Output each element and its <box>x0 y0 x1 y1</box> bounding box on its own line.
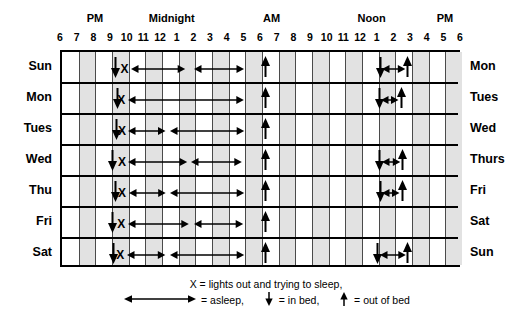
day-label-left-mon: Mon <box>26 90 52 103</box>
out-of-bed-arrow-icon-tues-0 <box>260 118 271 140</box>
hour-tick-16: 10 <box>321 31 333 43</box>
row-separator <box>62 113 458 115</box>
hour-tick-1: 7 <box>74 31 80 43</box>
row-separator <box>62 144 458 146</box>
asleep-arrow-icon-sun-0 <box>131 63 185 75</box>
asleep-arrow-icon-tues-1 <box>170 125 244 137</box>
out-of-bed-arrow-icon-wed-0 <box>260 149 271 171</box>
hour-tick-9: 3 <box>207 31 213 43</box>
day-label-right-thurs: Thurs <box>470 152 505 165</box>
day-label-right-sun: Sun <box>470 245 494 258</box>
lights-out-x-mark-sat-0: X <box>116 249 124 261</box>
legend-line-symbols: = asleep, = in bed, = out of bed <box>0 292 532 310</box>
diary-grid: XXXXXXX <box>60 50 460 267</box>
in-bed-arrow-icon <box>264 292 274 310</box>
hour-tick-18: 12 <box>354 31 366 43</box>
hour-tick-2: 8 <box>90 31 96 43</box>
row-separator <box>62 237 458 239</box>
out-of-bed-arrow-icon-fri-0 <box>260 211 271 233</box>
day-label-right-tues: Tues <box>470 90 498 103</box>
hour-tick-10: 4 <box>224 31 230 43</box>
hour-tick-3: 9 <box>107 31 113 43</box>
legend-asleep-text: = asleep, <box>201 294 244 306</box>
day-label-left-tues: Tues <box>24 121 52 134</box>
legend-out-of-bed-text: = out of bed <box>354 294 410 306</box>
nap-out-of-bed-arrow-icon-sun-0 <box>402 56 413 78</box>
asleep-arrow-icon-sat-1 <box>170 249 244 261</box>
day-label-left-thu: Thu <box>29 183 52 196</box>
day-label-left-fri: Fri <box>36 214 52 227</box>
lights-out-x-mark-fri-0: X <box>117 218 125 230</box>
hour-tick-20: 2 <box>390 31 396 43</box>
asleep-arrow-icon-wed-1 <box>191 156 242 168</box>
lights-out-x-mark-wed-0: X <box>118 156 126 168</box>
hour-tick-0: 6 <box>57 31 63 43</box>
hour-tick-4: 10 <box>121 31 133 43</box>
in-bed-arrow-icon-sun-0 <box>110 56 121 78</box>
asleep-arrow-icon-wed-0 <box>128 156 187 168</box>
day-label-left-wed: Wed <box>26 152 52 165</box>
legend-in-bed-text: = in bed, <box>279 294 320 306</box>
asleep-arrow-icon-sun-1 <box>194 63 244 75</box>
row-separator <box>62 82 458 84</box>
lights-out-x-mark-sun-0: X <box>120 63 128 75</box>
asleep-arrow-icon-sat-0 <box>127 249 165 261</box>
period-label-midnight-1: Midnight <box>149 12 195 24</box>
hour-tick-13: 7 <box>274 31 280 43</box>
hour-tick-5: 11 <box>138 31 149 43</box>
hour-tick-19: 1 <box>374 31 380 43</box>
day-label-right-mon: Mon <box>470 59 496 72</box>
hour-tick-23: 5 <box>440 31 446 43</box>
day-label-left-sat: Sat <box>33 245 52 258</box>
out-of-bed-arrow-icon-mon-0 <box>260 87 271 109</box>
nap-out-of-bed-arrow-icon-mon-0 <box>396 87 407 109</box>
in-bed-arrow-icon-wed-0 <box>107 149 118 171</box>
day-label-right-wed: Wed <box>470 121 496 134</box>
nap-out-of-bed-arrow-icon-sat-0 <box>402 242 413 264</box>
row-separator <box>62 206 458 208</box>
period-label-pm-4: PM <box>437 12 454 24</box>
lights-out-x-mark-thu-0: X <box>118 187 126 199</box>
hour-tick-21: 3 <box>407 31 413 43</box>
period-label-pm-0: PM <box>87 12 104 24</box>
hour-tick-6: 12 <box>154 31 166 43</box>
day-label-right-sat: Sat <box>470 214 489 227</box>
hour-tick-7: 1 <box>174 31 180 43</box>
hour-tick-12: 6 <box>257 31 263 43</box>
asleep-arrow-icon-tues-0 <box>128 125 166 137</box>
asleep-arrow-icon-fri-1 <box>194 218 243 230</box>
hour-tick-8: 2 <box>190 31 196 43</box>
asleep-arrow-icon-thu-1 <box>170 187 244 199</box>
sleep-diary-chart: PMMidnightAMNoonPM 678910111212345678910… <box>0 0 532 317</box>
row-separator <box>62 175 458 177</box>
out-of-bed-arrow-icon-sat-0 <box>260 242 271 264</box>
hour-tick-14: 8 <box>290 31 296 43</box>
hour-tick-15: 9 <box>307 31 313 43</box>
legend-line-lights-out: X = lights out and trying to sleep, <box>0 277 532 292</box>
lights-out-x-mark-mon-0: X <box>117 94 125 106</box>
asleep-arrow-icon-thu-0 <box>129 187 166 199</box>
asleep-arrow-icon-mon-0 <box>128 94 244 106</box>
nap-out-of-bed-arrow-icon-thu-0 <box>397 180 408 202</box>
out-of-bed-arrow-icon-thu-0 <box>260 180 271 202</box>
legend-lights-out-text: X = lights out and trying to sleep, <box>190 278 343 290</box>
legend: X = lights out and trying to sleep, = as… <box>0 277 532 310</box>
out-of-bed-arrow-icon-sun-0 <box>260 56 271 78</box>
period-label-am-2: AM <box>263 12 280 24</box>
hour-tick-17: 11 <box>338 31 349 43</box>
day-label-right-fri: Fri <box>470 183 486 196</box>
hour-tick-24: 6 <box>457 31 463 43</box>
asleep-arrow-icon <box>124 293 196 309</box>
hour-tick-22: 4 <box>424 31 430 43</box>
out-of-bed-arrow-icon <box>339 292 349 310</box>
period-label-noon-3: Noon <box>358 12 386 24</box>
lights-out-x-mark-tues-0: X <box>118 125 126 137</box>
asleep-arrow-icon-fri-0 <box>128 218 189 230</box>
hour-tick-11: 5 <box>240 31 246 43</box>
nap-out-of-bed-arrow-icon-wed-0 <box>397 149 408 171</box>
day-label-left-sun: Sun <box>28 59 52 72</box>
